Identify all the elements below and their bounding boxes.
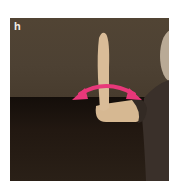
head — [160, 30, 169, 82]
arm-figure — [10, 18, 169, 181]
shirt — [142, 80, 169, 181]
panel-label: h — [14, 21, 21, 32]
exercise-photo: h — [10, 18, 169, 181]
forearm — [98, 33, 110, 111]
